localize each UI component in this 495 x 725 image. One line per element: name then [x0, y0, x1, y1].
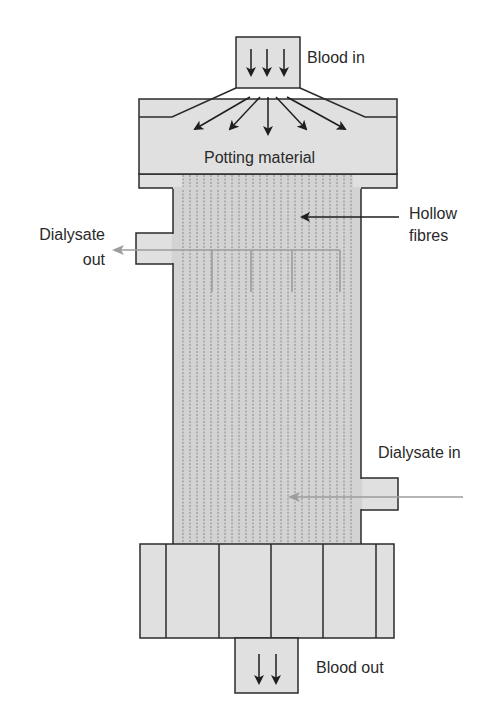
bottom-header — [140, 544, 394, 638]
dialysate-out-label-line2: out — [0, 250, 105, 270]
dialysate-in-label: Dialysate in — [378, 443, 461, 463]
top-header — [139, 88, 397, 188]
dialysate-inlet-port — [358, 478, 398, 510]
blood-in-label: Blood in — [307, 48, 365, 68]
hollow-fibres-label-line1: Hollow — [409, 204, 457, 224]
blood-out-label: Blood out — [316, 658, 384, 678]
potting-material-label: Potting material — [204, 148, 315, 168]
blood-outlet — [235, 638, 298, 693]
dialysate-outlet-port — [136, 233, 176, 264]
blood-inlet — [236, 37, 300, 88]
fibre-bundle — [173, 176, 361, 546]
dialysate-out-label-line1: Dialysate — [0, 225, 105, 245]
hollow-fibres-label-line2: fibres — [409, 226, 448, 246]
dialyser-diagram — [0, 0, 495, 725]
